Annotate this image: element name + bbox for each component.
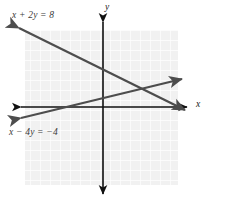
coordinate-plane-graphic [0, 0, 229, 209]
equation-label-line2: x − 4y = −4 [9, 127, 58, 137]
equation-label-line1: x + 2y = 8 [12, 10, 54, 20]
x-axis-label: x [196, 99, 200, 109]
graph-figure: x + 2y = 8 x − 4y = −4 y x [0, 0, 229, 209]
y-axis-label: y [105, 2, 109, 12]
